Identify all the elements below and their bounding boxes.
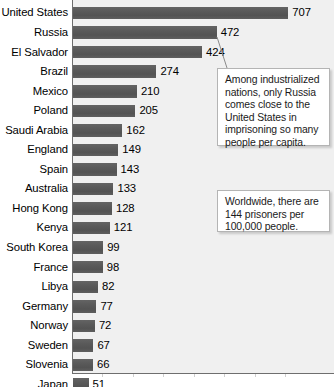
bar [73,26,217,39]
bar-value-label: 66 [97,359,109,370]
bar-value-label: 128 [116,203,135,214]
bar-row: Slovenia66 [0,355,334,375]
bar [73,339,93,352]
bar-value-label: 707 [292,7,311,18]
bar-category-label: Brazil [0,66,68,77]
bar-category-label: Libya [0,281,68,292]
annotation-russia-note: Among industrialized nations, only Russi… [217,68,330,146]
bar [73,163,117,176]
bar [73,85,137,98]
bar-track: 143 [73,160,334,180]
bar-category-label: Japan [0,379,68,387]
bar [73,359,93,372]
bar-value-label: 133 [117,183,136,194]
bar-track: 77 [73,297,334,317]
bar-category-label: El Salvador [0,47,68,58]
bar [73,222,110,235]
bar-value-label: 143 [121,164,140,175]
bar-value-label: 98 [107,262,119,273]
bar-row: Japan51 [0,375,334,387]
bar-row: Russia472 [0,23,334,43]
bar [73,320,95,333]
bar-track: 99 [73,238,334,258]
bar-value-label: 149 [122,144,141,155]
x-axis-tick [224,374,225,377]
bar-row: Spain143 [0,160,334,180]
bar-track: 66 [73,355,334,375]
bar-category-label: Hong Kong [0,203,68,214]
bar-value-label: 274 [160,66,179,77]
bar-row: El Salvador424 [0,42,334,62]
bar-row: France98 [0,257,334,277]
annotation-worldwide-note: Worldwide, there are 144 prisoners per 1… [217,190,330,232]
bar [73,65,156,78]
bar-category-label: Saudi Arabia [0,125,68,136]
bar-track: 424 [73,42,334,62]
bar-value-label: 67 [97,340,109,351]
bar [73,261,103,274]
bar-track: 51 [73,375,334,387]
bar-row: South Korea99 [0,238,334,258]
bar [73,105,135,118]
bar-value-label: 51 [93,379,105,387]
bar-row: Norway72 [0,316,334,336]
bar-row: Germany77 [0,297,334,317]
prisoners-per-capita-bar-chart: United States707Russia472El Salvador424B… [0,0,334,387]
bar-row: Sweden67 [0,336,334,356]
bar-category-label: Mexico [0,86,68,97]
bar-track: 82 [73,277,334,297]
bar-category-label: United States [0,7,68,18]
bar-track: 72 [73,316,334,336]
x-axis-tick [194,374,195,377]
bar [73,202,112,215]
bar-value-label: 162 [126,125,145,136]
bar [73,124,122,137]
callout-leader-line [215,37,229,68]
bar [73,281,98,294]
bar-rows: United States707Russia472El Salvador424B… [0,0,334,374]
bar [73,183,113,196]
bar [73,300,96,313]
bar-track: 707 [73,3,334,23]
bar-category-label: Australia [0,183,68,194]
bar-category-label: Kenya [0,222,68,233]
x-axis-tick [255,374,256,377]
bar-row: United States707 [0,3,334,23]
bar-category-label: Sweden [0,340,68,351]
bar-value-label: 72 [99,320,111,331]
bar-category-label: Russia [0,27,68,38]
bar-category-label: Poland [0,105,68,116]
x-axis-tick [102,374,103,377]
x-axis-tick [133,374,134,377]
bar-track: 67 [73,336,334,356]
bar [73,7,288,20]
x-axis-line [72,373,334,374]
bar-value-label: 121 [114,222,133,233]
bar-value-label: 99 [107,242,119,253]
x-axis-tick [163,374,164,377]
bar-category-label: Germany [0,301,68,312]
bar-category-label: Norway [0,320,68,331]
bar-category-label: South Korea [0,242,68,253]
bar-track: 472 [73,23,334,43]
bar-value-label: 82 [102,281,114,292]
bar-value-label: 77 [100,301,112,312]
bar-category-label: Slovenia [0,359,68,370]
bar-category-label: England [0,144,68,155]
x-axis-tick [285,374,286,377]
bar-value-label: 210 [141,86,160,97]
bar [73,144,118,157]
bar-value-label: 205 [139,105,158,116]
bar-row: Libya82 [0,277,334,297]
bar-category-label: Spain [0,164,68,175]
bar [73,46,202,59]
bar [73,378,89,387]
bar [73,241,103,254]
bar-track: 98 [73,257,334,277]
bar-category-label: France [0,262,68,273]
